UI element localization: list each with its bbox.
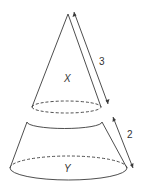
dimension-cone-slant: 3 [73, 12, 110, 104]
cone-x: X [32, 14, 101, 113]
cone-label: X [63, 73, 71, 84]
cone-slant-value: 3 [99, 56, 105, 67]
frustum-slant-value: 2 [127, 129, 133, 140]
frustum-y: Y [10, 122, 127, 180]
cone-frustum-diagram: X Y 3 2 [0, 0, 141, 188]
frustum-label: Y [64, 163, 72, 174]
